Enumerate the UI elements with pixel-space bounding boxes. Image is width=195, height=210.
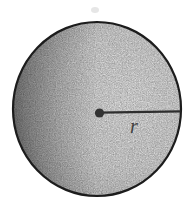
- center-dot: [95, 108, 104, 117]
- top-smudge: [91, 7, 99, 13]
- diagram-canvas: r: [0, 0, 195, 210]
- radius-line: [100, 111, 181, 112]
- radius-label: r: [130, 115, 138, 137]
- circle-diagram: r: [0, 0, 195, 210]
